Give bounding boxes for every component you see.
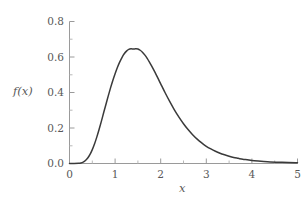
y-tick-label-2: 0.4 [34,87,64,98]
x-tick-label-5: 5 [288,169,307,180]
x-tick-label-3: 3 [196,169,216,180]
x-axis-title: x [179,183,186,195]
y-tick-marks [70,22,75,164]
y-axis-title: f(x) [13,86,33,98]
x-tick-label-1: 1 [105,169,125,180]
y-tick-label-3: 0.6 [34,52,64,63]
x-tick-label-2: 2 [151,169,171,180]
density-curve [70,49,298,164]
x-tick-label-0: 0 [60,169,80,180]
y-tick-label-4: 0.8 [34,16,64,27]
y-tick-label-1: 0.2 [34,123,64,134]
y-tick-label-0: 0.0 [34,158,64,169]
chart-figure: 0.0 0.2 0.4 0.6 0.8 0 1 2 3 4 5 f(x) x [0,0,306,200]
x-tick-label-4: 4 [242,169,262,180]
